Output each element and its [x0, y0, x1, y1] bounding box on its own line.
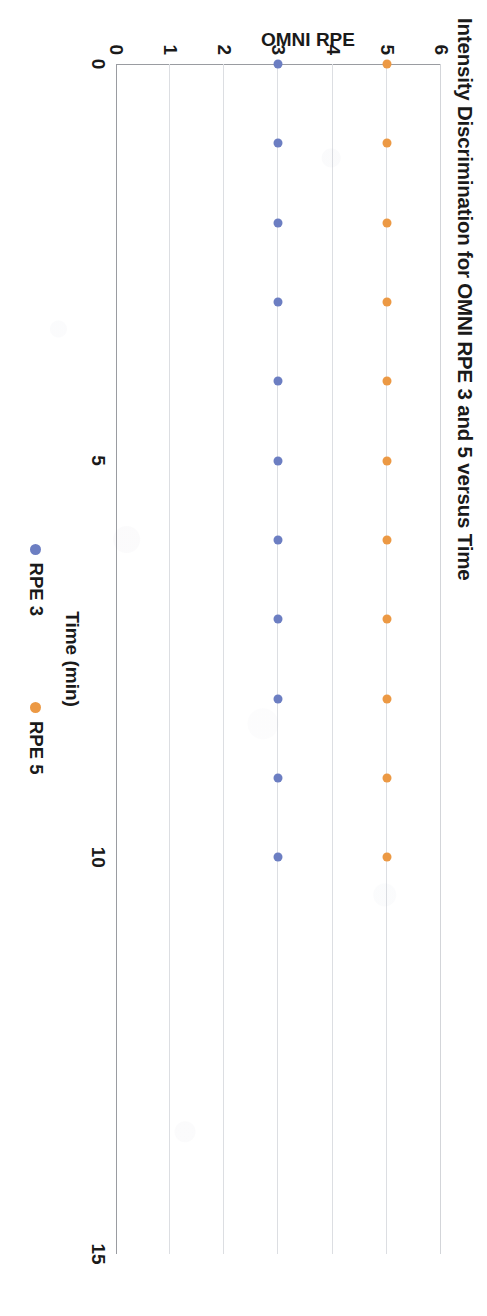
gridline [332, 64, 333, 1254]
chart-title: Intensity Discrimination for OMNI RPE 3 … [453, 18, 477, 580]
x-axis-tick-label: 15 [87, 1243, 109, 1264]
data-point-marker [274, 60, 283, 69]
x-axis-title: Time (min) [61, 64, 83, 1254]
data-point-marker [274, 694, 283, 703]
data-point-marker [382, 615, 391, 624]
chart-legend: RPE 3RPE 5 [25, 64, 47, 1254]
data-point-marker [382, 60, 391, 69]
x-axis-tick-label: 10 [87, 847, 109, 868]
data-point-marker [274, 774, 283, 783]
data-point-marker [274, 377, 283, 386]
data-point-marker [382, 536, 391, 545]
y-axis-tick-label: 1 [159, 44, 181, 55]
data-point-marker [382, 774, 391, 783]
legend-label: RPE 5 [25, 721, 47, 774]
data-point-marker [382, 456, 391, 465]
data-point-marker [382, 694, 391, 703]
data-point-marker [274, 139, 283, 148]
x-axis-line [116, 64, 117, 1254]
gridline [386, 64, 387, 1254]
legend-label: RPE 3 [25, 563, 47, 616]
y-axis-tick-label: 6 [430, 44, 452, 55]
y-axis-title: OMNI RPE [198, 29, 418, 51]
gridline [223, 64, 224, 1254]
legend-swatch-rpe3-icon [31, 544, 42, 555]
data-point-marker [274, 218, 283, 227]
scanned-chart-page: Intensity Discrimination for OMNI RPE 3 … [0, 0, 487, 1316]
x-axis-tick-label: 5 [87, 455, 109, 466]
data-point-marker [274, 536, 283, 545]
legend-swatch-rpe5-icon [31, 702, 42, 713]
y-axis-tick-label: 0 [105, 44, 127, 55]
gridline [169, 64, 170, 1254]
data-point-marker [382, 139, 391, 148]
x-axis-tick-label: 0 [87, 59, 109, 70]
data-point-marker [382, 853, 391, 862]
data-point-marker [274, 615, 283, 624]
data-point-marker [382, 377, 391, 386]
data-point-marker [274, 298, 283, 307]
plot-area: 0123456 051015 [116, 64, 441, 1254]
gridline [278, 64, 279, 1254]
data-point-marker [382, 218, 391, 227]
legend-item: RPE 3 [25, 544, 47, 616]
legend-item: RPE 5 [25, 702, 47, 774]
data-point-marker [382, 298, 391, 307]
data-point-marker [274, 456, 283, 465]
data-point-marker [274, 853, 283, 862]
gridline [440, 64, 441, 1254]
